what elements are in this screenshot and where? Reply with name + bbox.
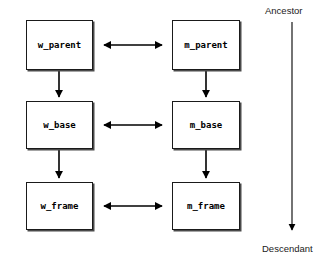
node-label: w_base [43, 120, 76, 130]
ancestry-axis-bottom-label: Descendant [262, 243, 313, 254]
ancestry-axis-top-label: Ancestor [265, 5, 303, 16]
node-label: w_parent [38, 40, 81, 50]
node-w-parent[interactable]: w_parent [26, 20, 93, 70]
node-w-frame[interactable]: w_frame [26, 182, 93, 230]
diagram-canvas: w_parent m_parent w_base m_base w_frame … [0, 0, 332, 262]
node-label: m_parent [184, 40, 227, 50]
node-label: w_frame [41, 201, 79, 211]
node-m-base[interactable]: m_base [172, 101, 240, 149]
node-label: m_frame [187, 201, 225, 211]
node-m-frame[interactable]: m_frame [172, 182, 240, 230]
node-w-base[interactable]: w_base [26, 101, 93, 149]
node-m-parent[interactable]: m_parent [172, 20, 240, 70]
node-label: m_base [190, 120, 223, 130]
